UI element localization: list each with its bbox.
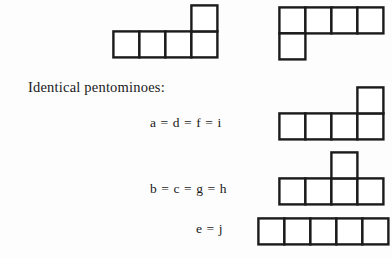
pentomino-cell (331, 113, 357, 139)
pentomino-cell (331, 152, 357, 178)
I-pentomino-straight-svg (256, 216, 391, 247)
pentomino-cell (139, 31, 165, 57)
pentomino-cell (310, 218, 336, 244)
pentomino-cell (279, 113, 305, 139)
pentomino-cell (279, 178, 305, 204)
pentomino-cell (357, 178, 383, 204)
equation-label-a: a = d = f = i (150, 116, 222, 130)
pentomino-cell (331, 178, 357, 204)
pentomino-cell (357, 113, 383, 139)
pentomino-cell (165, 31, 191, 57)
L-pentomino-up-right-svg (277, 85, 386, 142)
pentomino-cell (357, 7, 383, 33)
page-title: Identical pentominoes: (28, 80, 165, 95)
pentomino-cell (362, 218, 388, 244)
pentomino-cell (279, 7, 305, 33)
pentomino-figure: Identical pentominoes: a = d = f = i b =… (0, 0, 392, 258)
pentomino-group-a (277, 85, 386, 142)
equation-label-e: e = j (196, 222, 223, 236)
pentomino-cell (279, 33, 305, 59)
pentomino-cell (331, 7, 357, 33)
Y-pentomino-bump-third-svg (277, 150, 386, 207)
pentomino-cell (284, 218, 310, 244)
pentomino-cell (336, 218, 362, 244)
pentomino-group-b (277, 150, 386, 207)
pentomino-cell (258, 218, 284, 244)
pentomino-cell (357, 87, 383, 113)
pentomino-cell (305, 178, 331, 204)
pentomino-cell (191, 31, 217, 57)
pentomino-cell (305, 7, 331, 33)
pentomino-cell (305, 113, 331, 139)
L-pentomino-up-right-svg (111, 3, 220, 60)
J-pentomino-down-left-svg (277, 5, 386, 62)
pentomino-top-right (277, 5, 386, 62)
pentomino-cell (113, 31, 139, 57)
pentomino-group-e (256, 216, 391, 247)
equation-label-b: b = c = g = h (150, 182, 227, 196)
pentomino-cell (191, 5, 217, 31)
pentomino-top-left (111, 3, 220, 60)
